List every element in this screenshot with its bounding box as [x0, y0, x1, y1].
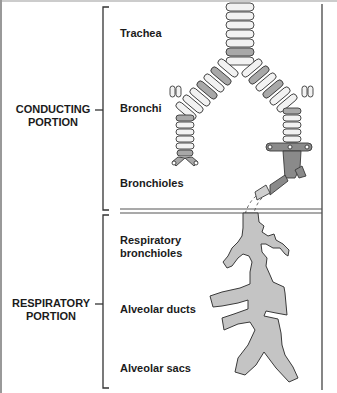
alveolar-ducts-label: Alveolar ducts: [120, 303, 196, 316]
airway-illustration: [0, 0, 337, 393]
section-divider: [120, 209, 322, 213]
bronchioles-label: Bronchioles: [120, 177, 184, 190]
trachea-label: Trachea: [120, 27, 162, 40]
bronchi-label: Bronchi: [120, 102, 162, 115]
right-lateral-branch: [302, 86, 313, 97]
alveolar-tree-drawing: [210, 213, 298, 382]
conducting-portion-label: CONDUCTING PORTION: [12, 103, 94, 129]
left-lateral-branch: [170, 86, 181, 97]
right-bronchus-drawing: [241, 58, 299, 114]
left-descending-bronchus: [172, 115, 198, 166]
respiratory-bronchioles-label: Respiratory bronchioles: [120, 234, 182, 260]
alveolar-sacs-label: Alveolar sacs: [120, 362, 191, 375]
bronchiole-drawing: [255, 143, 312, 200]
respiratory-bracket: [95, 215, 109, 388]
conducting-bracket: [95, 7, 109, 210]
airway-diagram: CONDUCTING PORTION RESPIRATORY PORTION T…: [0, 0, 337, 393]
trachea-drawing: [226, 3, 254, 65]
left-bronchus-drawing: [175, 58, 240, 122]
respiratory-portion-label: RESPIRATORY PORTION: [8, 297, 94, 323]
